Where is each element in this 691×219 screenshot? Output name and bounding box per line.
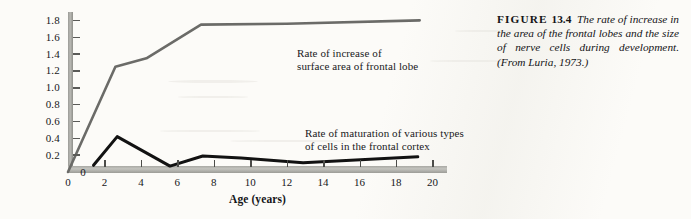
x-tick <box>250 160 252 167</box>
y-tick <box>73 53 80 55</box>
x-tick <box>396 160 398 167</box>
y-tick <box>73 37 80 39</box>
figure-page: Rate of increase (percent) Age (years) R… <box>0 0 691 219</box>
x-tick <box>432 160 434 167</box>
y-tick <box>73 70 80 72</box>
y-tick <box>73 121 80 123</box>
x-tick <box>323 160 325 167</box>
x-tick-label: 4 <box>129 177 153 188</box>
y-tick <box>73 20 80 22</box>
x-tick-label: 14 <box>311 177 335 188</box>
x-tick <box>214 160 216 167</box>
y-tick-label: 0.4 <box>30 133 60 144</box>
y-tick <box>73 87 80 89</box>
y-tick <box>73 154 80 156</box>
annotation-surface-area-line2: surface area of frontal lobe <box>297 60 418 73</box>
x-tick <box>177 160 179 167</box>
figure-number: 13.4 <box>552 13 572 25</box>
y-tick-label: 1.6 <box>30 32 60 43</box>
x-tick-label: 0 <box>56 177 80 188</box>
x-tick <box>141 160 143 167</box>
y-tick-label: 1.4 <box>30 49 60 60</box>
x-tick <box>287 160 289 167</box>
x-tick-label: 12 <box>275 177 299 188</box>
y-tick-label: 0.2 <box>30 150 60 161</box>
annotation-surface-area-line1: Rate of increase of <box>297 47 418 60</box>
figure-label: FIGURE <box>497 13 548 25</box>
figure-caption: FIGURE 13.4 The rate of increase in the … <box>497 12 679 69</box>
x-tick-label: 2 <box>92 177 116 188</box>
x-tick-label: 16 <box>348 177 372 188</box>
annotation-maturation-line1: Rate of maturation of various types <box>305 127 464 140</box>
y-tick-label: 1.0 <box>30 82 60 93</box>
y-tick <box>73 104 80 106</box>
x-tick <box>360 160 362 167</box>
annotation-maturation-line2: of cells in the frontal cortex <box>305 140 464 153</box>
x-tick-label: 20 <box>420 177 444 188</box>
x-tick <box>104 160 106 167</box>
chart-figure: Rate of increase (percent) Age (years) R… <box>0 0 470 219</box>
x-tick-label: 8 <box>202 177 226 188</box>
x-tick-label: 18 <box>384 177 408 188</box>
y-tick-label: 0.8 <box>30 99 60 110</box>
y-tick-label: 0 <box>56 167 86 178</box>
x-tick-label: 10 <box>238 177 262 188</box>
y-tick-label: 1.8 <box>30 15 60 26</box>
x-tick-label: 6 <box>165 177 189 188</box>
figure-label-text: FIGURE 13.4 <box>497 13 571 25</box>
annotation-surface-area: Rate of increase of surface area of fron… <box>297 47 418 72</box>
y-tick-label: 1.2 <box>30 65 60 76</box>
y-tick-label: 0.6 <box>30 116 60 127</box>
y-tick <box>73 138 80 140</box>
annotation-maturation: Rate of maturation of various types of c… <box>305 127 464 152</box>
